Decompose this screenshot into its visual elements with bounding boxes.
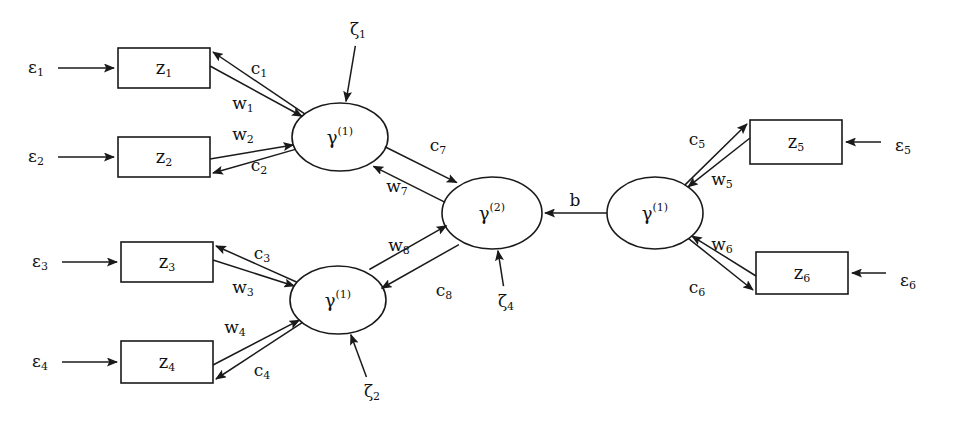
disturbance-zeta2: ζ2 bbox=[364, 381, 380, 404]
diagram-canvas: z1z2z3z4z5z6 γ(1)γ(1)γ(2)γ(1) c1w1w2c2c3… bbox=[0, 0, 956, 425]
error-term-e4: ε4 bbox=[32, 351, 48, 374]
path-zeta2-disturbance bbox=[351, 335, 367, 377]
error-term-e6: ε6 bbox=[900, 270, 916, 293]
path-label-c8: c8 bbox=[436, 280, 453, 303]
path-zeta1-disturbance bbox=[346, 46, 355, 101]
latent-variable-ellipses: γ(1)γ(1)γ(2)γ(1) bbox=[290, 103, 703, 334]
path-label-w2: w2 bbox=[232, 124, 254, 147]
disturbance-zeta1: ζ1 bbox=[350, 19, 366, 42]
path-label-c5: c5 bbox=[689, 129, 706, 152]
path-label-w1: w1 bbox=[232, 93, 254, 116]
error-term-e1: ε1 bbox=[28, 57, 44, 80]
path-label-w3: w3 bbox=[232, 277, 254, 300]
sem-path-diagram: z1z2z3z4z5z6 γ(1)γ(1)γ(2)γ(1) c1w1w2c2c3… bbox=[0, 0, 956, 425]
path-label-c6: c6 bbox=[689, 277, 706, 300]
path-w3-weight bbox=[213, 260, 294, 286]
path-label-c4: c4 bbox=[254, 360, 271, 383]
path-label-c3: c3 bbox=[254, 243, 271, 266]
path-label-c1: c1 bbox=[251, 58, 268, 81]
disturbance-zeta4: ζ4 bbox=[498, 291, 514, 314]
path-label-c7: c7 bbox=[430, 135, 447, 158]
path-zeta4-disturbance bbox=[498, 251, 504, 286]
error-term-e3: ε3 bbox=[32, 251, 48, 274]
path-label-w4: w4 bbox=[224, 317, 246, 340]
path-label-b: b bbox=[570, 190, 581, 210]
error-term-e2: ε2 bbox=[28, 146, 44, 169]
path-label-w7: w7 bbox=[386, 176, 408, 199]
path-label-w5: w5 bbox=[711, 169, 733, 192]
error-term-e5: ε5 bbox=[895, 135, 911, 158]
path-label-w6: w6 bbox=[711, 234, 733, 257]
path-label-w8: w8 bbox=[388, 235, 410, 258]
